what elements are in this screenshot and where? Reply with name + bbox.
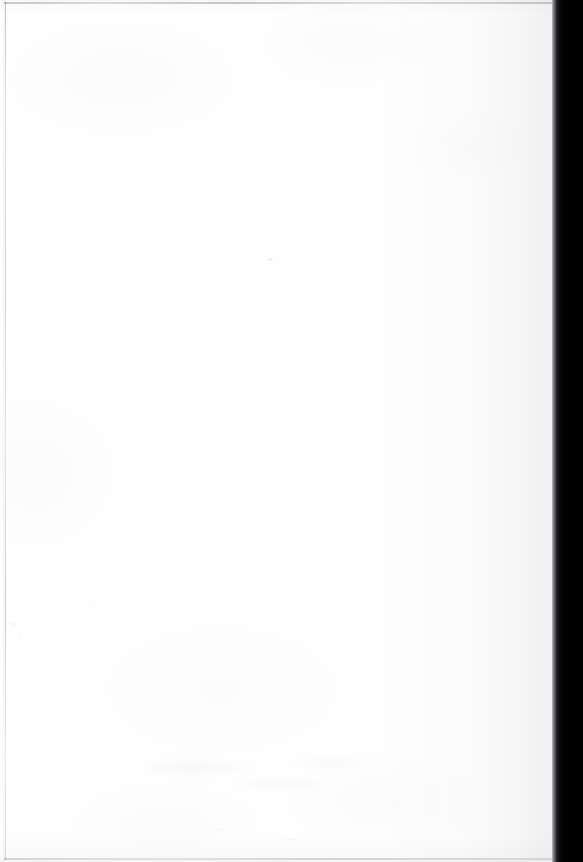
page-top-edge-rule	[4, 2, 553, 4]
bleed-through-ghost-text	[104, 786, 364, 820]
dust-speck	[268, 258, 273, 261]
scanner-gutter	[552, 0, 583, 862]
page-bottom-edge-rule	[4, 858, 553, 860]
dust-speck	[18, 633, 22, 636]
page-left-edge-rule	[5, 2, 6, 860]
paper-surface	[0, 0, 553, 862]
dust-speck	[440, 138, 443, 141]
bleed-through-smudge	[150, 752, 360, 804]
dust-speck	[10, 622, 16, 627]
paper-grain-texture	[0, 0, 553, 862]
dust-speck	[218, 828, 225, 831]
dust-speck	[286, 838, 295, 840]
scanned-page-canvas	[0, 0, 583, 862]
dust-speck	[93, 600, 96, 602]
